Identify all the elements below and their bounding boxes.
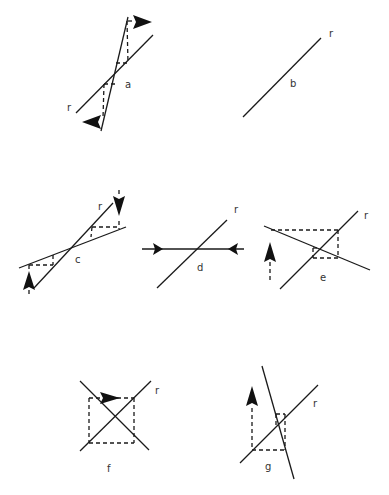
arrow-right-icon: [100, 392, 120, 404]
dashed-projection: [103, 84, 104, 118]
line-label-r: r: [329, 28, 334, 39]
panel-g: r g: [240, 366, 318, 479]
crossing-line: [80, 381, 149, 450]
panel-label-e: e: [320, 272, 326, 283]
line-r: [280, 211, 358, 289]
arrow-down-icon: [113, 196, 125, 216]
crossing-line: [19, 227, 126, 268]
panel-c: r c: [19, 190, 126, 296]
line-label-r: r: [67, 102, 72, 113]
arrow-right-icon: [133, 15, 152, 29]
line-label-r: r: [364, 210, 369, 221]
arrow-up-icon: [23, 271, 35, 290]
arrow-up-icon: [264, 242, 276, 262]
panel-label-f: f: [107, 463, 111, 474]
panel-label-a: a: [125, 79, 131, 90]
line-r: [157, 220, 227, 288]
arrow-left-icon: [82, 115, 101, 129]
panel-label-b: b: [290, 78, 296, 89]
panel-label-c: c: [75, 254, 81, 265]
line-label-r: r: [98, 201, 103, 212]
panel-b: r b: [243, 28, 334, 117]
dashed-projection: [127, 21, 128, 63]
diagram-canvas: r a r b r c r d: [0, 0, 389, 495]
line-label-r: r: [234, 204, 239, 215]
line-label-r: r: [155, 385, 160, 396]
line-r: [34, 203, 113, 288]
panel-label-g: g: [265, 461, 271, 472]
line-label-r: r: [313, 398, 318, 409]
line-r: [243, 38, 321, 117]
crossing-line: [101, 17, 128, 131]
panel-f: r f: [80, 381, 160, 474]
panel-a: r a: [67, 15, 153, 131]
panel-e: r e: [264, 210, 370, 289]
panel-d: r d: [142, 204, 244, 288]
dashed-projection: [91, 227, 92, 237]
arrow-up-icon: [246, 386, 258, 406]
panel-label-d: d: [197, 262, 203, 273]
